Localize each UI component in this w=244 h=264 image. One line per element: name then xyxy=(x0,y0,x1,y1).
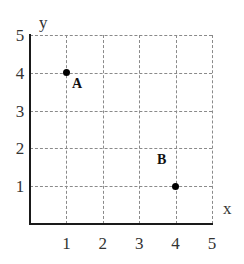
y-tick-label-3: 3 xyxy=(11,103,29,120)
gridline-vertical-x4 xyxy=(176,35,177,224)
x-axis-label: x xyxy=(223,200,232,217)
gridline-vertical-x5 xyxy=(212,35,213,224)
gridline-horizontal-y2 xyxy=(30,148,212,149)
gridline-vertical-x2 xyxy=(103,35,104,224)
y-axis-line xyxy=(29,34,31,225)
gridline-horizontal-y5 xyxy=(30,35,212,36)
gridline-horizontal-y4 xyxy=(30,73,212,74)
datapoint-b xyxy=(172,183,179,190)
y-tick-label-2: 2 xyxy=(11,140,29,157)
gridline-vertical-x1 xyxy=(66,35,67,224)
y-axis-label: y xyxy=(39,14,48,31)
coordinate-plane-figure: A B 5 4 3 2 1 1 2 3 4 5 y x xyxy=(0,0,244,264)
datapoint-label-a: A xyxy=(72,77,82,91)
datapoint-label-b: B xyxy=(157,153,166,167)
y-tick-label-5: 5 xyxy=(11,27,29,44)
x-tick-label-5: 5 xyxy=(203,235,221,252)
x-tick-label-4: 4 xyxy=(167,235,185,252)
x-tick-label-3: 3 xyxy=(130,235,148,252)
x-tick-label-2: 2 xyxy=(94,235,112,252)
plot-area: A B xyxy=(30,35,212,224)
x-tick-label-1: 1 xyxy=(57,235,75,252)
gridline-horizontal-y3 xyxy=(30,111,212,112)
datapoint-a xyxy=(63,69,70,76)
gridline-vertical-x3 xyxy=(139,35,140,224)
gridline-horizontal-y1 xyxy=(30,186,212,187)
x-axis-line xyxy=(29,223,213,225)
y-tick-label-4: 4 xyxy=(11,65,29,82)
y-tick-label-1: 1 xyxy=(11,178,29,195)
